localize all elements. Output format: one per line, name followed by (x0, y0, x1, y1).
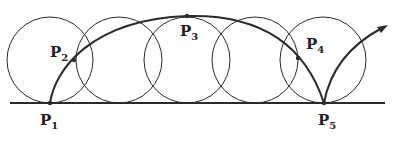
rolling-circle-5 (280, 17, 366, 103)
arrowhead-icon (377, 25, 388, 33)
point-p3 (185, 14, 189, 18)
point-p2 (72, 58, 76, 62)
label-p5: P5 (318, 113, 336, 131)
cycloid-diagram (0, 0, 402, 141)
rolling-circle-4 (212, 17, 298, 103)
point-p1 (48, 101, 52, 105)
point-p4 (296, 56, 300, 60)
point-p5 (322, 101, 326, 105)
label-p4: P4 (306, 37, 324, 55)
next-arch-arrow (324, 28, 382, 103)
label-p1: P1 (40, 113, 58, 131)
label-p2: P2 (50, 45, 68, 63)
label-p3: P3 (180, 24, 198, 42)
